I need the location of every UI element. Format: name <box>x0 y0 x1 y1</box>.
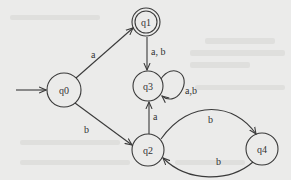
edge-label-q2-q4: b <box>208 114 213 125</box>
state-label-q2: q2 <box>143 145 153 156</box>
state-label-q4: q4 <box>257 144 267 155</box>
automaton-diagram: a b a, b a,b a b b q0 q1 q3 <box>0 0 291 180</box>
state-q4: q4 <box>246 133 278 165</box>
state-label-q3: q3 <box>143 81 153 92</box>
state-label-q1: q1 <box>141 17 151 28</box>
state-label-q0: q0 <box>59 85 69 96</box>
edge-label-q0-q1: a <box>91 49 96 60</box>
edge-label-q1-q3: a, b <box>151 46 165 57</box>
state-q1-accepting: q1 <box>132 8 160 36</box>
edge-label-q0-q2: b <box>84 124 89 135</box>
edge-q0-q1 <box>76 28 133 78</box>
edge-label-q3-loop: a,b <box>185 85 197 96</box>
edge-q3-loop <box>161 71 184 99</box>
edge-label-q2-q3: a <box>153 111 158 122</box>
state-q0: q0 <box>47 73 81 107</box>
state-q2: q2 <box>132 134 164 166</box>
state-q3: q3 <box>133 71 163 101</box>
diagram-svg: a b a, b a,b a b b q0 q1 q3 <box>0 0 291 180</box>
edge-label-q4-q2: b <box>216 156 221 167</box>
